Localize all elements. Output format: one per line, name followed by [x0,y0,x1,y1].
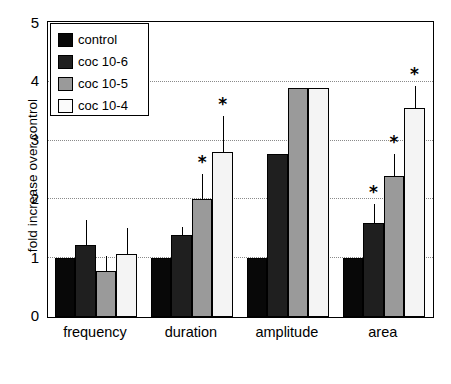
bar [116,254,137,317]
y-tick-label: 2 [0,191,39,206]
legend-item: coc 10-5 [58,73,148,94]
bar [308,88,329,317]
error-bar [394,154,395,176]
error-bar [127,228,128,254]
bar [384,176,405,317]
bar [96,271,117,317]
x-tick-label: amplitude [239,324,335,340]
error-bar [374,204,375,223]
bar [267,154,288,317]
x-tick-label: frequency [47,324,143,340]
bar [212,152,233,317]
legend-swatch-icon [58,77,73,91]
legend-item: coc 10-4 [58,95,148,116]
error-bar [202,174,203,199]
bar-chart-figure: fold increase over control 012345 ***** … [0,0,451,384]
significance-marker: * [214,96,232,113]
significance-marker: * [406,66,424,83]
bar [247,258,268,317]
y-tick-label: 5 [0,15,39,30]
x-axis-tick-labels: frequencydurationamplitudearea [47,324,434,354]
bar [75,245,96,317]
x-tick-label: duration [143,324,239,340]
legend-label: control [78,32,117,47]
significance-marker: * [385,134,403,151]
legend-label: coc 10-4 [78,98,128,113]
bar [363,223,384,317]
chart-legend: controlcoc 10-6coc 10-5coc 10-4 [50,23,149,116]
bar [55,258,76,317]
error-bar [223,116,224,152]
bar [288,88,309,317]
error-bar [415,86,416,108]
legend-label: coc 10-5 [78,76,128,91]
legend-item: control [58,29,148,50]
y-tick-label: 0 [0,308,39,323]
error-bar [182,227,183,235]
x-tick-label: area [335,324,431,340]
legend-label: coc 10-6 [78,54,128,69]
legend-swatch-icon [58,33,73,47]
bar [192,199,213,317]
legend-swatch-icon [58,55,73,69]
y-tick-label: 1 [0,250,39,265]
significance-marker: * [193,154,211,171]
legend-swatch-icon [58,99,73,113]
legend-item: coc 10-6 [58,51,148,72]
bar [404,108,425,317]
gridline-3 [48,140,433,141]
bar [151,258,172,317]
y-tick-label: 3 [0,132,39,147]
bar [343,258,364,317]
error-bar [86,220,87,245]
bar [171,235,192,317]
error-bar [106,256,107,271]
y-tick-label: 4 [0,73,39,88]
significance-marker: * [365,184,383,201]
